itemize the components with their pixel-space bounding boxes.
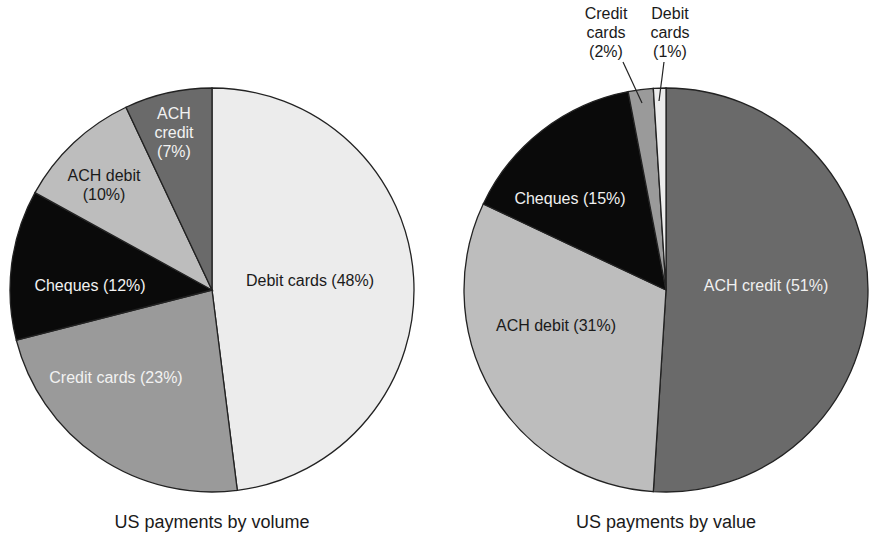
- label-ach-debit-volume-line2: (10%): [83, 186, 126, 203]
- label-debit-cards-volume: Debit cards (48%): [246, 272, 374, 289]
- payments-pie-charts: Debit cards (48%) Credit cards (23%) Che…: [0, 0, 871, 544]
- label-cheques-volume: Cheques (12%): [34, 277, 145, 294]
- chart-title-volume: US payments by volume: [114, 512, 309, 532]
- label-cheques-value: Cheques (15%): [514, 190, 625, 207]
- chart-title-value: US payments by value: [576, 512, 756, 532]
- label-ach-debit-value: ACH debit (31%): [496, 317, 616, 334]
- pie-slice-debit-cards: [212, 88, 414, 490]
- label-ach-credit-volume-line2: credit: [154, 124, 194, 141]
- label-credit-cards-volume: Credit cards (23%): [49, 369, 182, 386]
- label-ach-credit-value: ACH credit (51%): [704, 277, 828, 294]
- label-ach-debit-volume-line1: ACH debit: [68, 167, 141, 184]
- label-ach-credit-volume-line3: (7%): [157, 143, 191, 160]
- label-debit-cards-value-line1: Debit: [651, 5, 689, 22]
- label-debit-cards-value-line2: cards: [650, 24, 689, 41]
- label-ach-credit-volume-line1: ACH: [157, 105, 191, 122]
- label-credit-cards-value-line1: Credit: [585, 5, 628, 22]
- label-debit-cards-value-line3: (1%): [653, 43, 687, 60]
- label-credit-cards-value-line2: cards: [586, 24, 625, 41]
- label-credit-cards-value-line3: (2%): [589, 43, 623, 60]
